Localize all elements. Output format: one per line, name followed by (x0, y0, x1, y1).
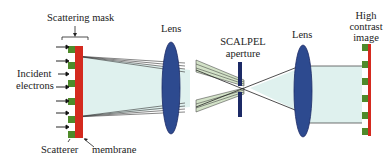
label-lens-right: Lens (292, 29, 312, 40)
incident-electron-arrows (56, 45, 69, 129)
lens-right-icon (294, 45, 312, 137)
label-scatterer: Scatterer (41, 144, 78, 155)
aperture-top-blade (238, 62, 242, 86)
label-image-line1: High (340, 10, 392, 21)
image-membrane-strip (368, 44, 371, 136)
label-aperture-line2: aperture (216, 48, 270, 59)
aperture-bottom-blade (238, 92, 242, 117)
label-incident: Incident (17, 68, 51, 79)
image-blocks (362, 44, 368, 135)
label-electrons: electrons (16, 80, 54, 91)
label-image-line3: image (340, 32, 392, 43)
scalpel-diagram: Scattering mask Incident electrons Scatt… (0, 0, 392, 159)
beam-crossover-region (250, 68, 300, 112)
scatterer-blocks (68, 46, 75, 138)
label-scattering-mask: Scattering mask (47, 12, 114, 23)
label-membrane: membrane (92, 144, 136, 155)
label-lens-left: Lens (161, 23, 181, 34)
membrane-strip (75, 46, 83, 138)
lens-left-icon (162, 42, 180, 134)
label-aperture-line1: SCALPEL (216, 36, 270, 47)
diagram-graphics (0, 0, 392, 159)
label-image-line2: contrast (340, 21, 392, 32)
